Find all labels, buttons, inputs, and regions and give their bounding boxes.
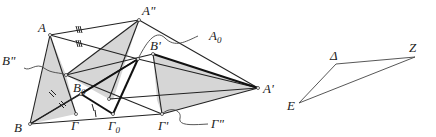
- label-B-prime: B': [150, 38, 161, 53]
- label-Z: Z: [409, 40, 417, 55]
- label-A-prime: A': [262, 81, 274, 96]
- label-Gamma0: Γ0: [107, 118, 120, 135]
- label-E: E: [286, 98, 295, 113]
- label-Gamma-prime: Γ': [157, 118, 168, 133]
- label-Gamma-double-prime: Γ": [210, 116, 224, 131]
- label-B-double-prime: B": [2, 53, 16, 68]
- label-A0: A0: [208, 28, 222, 45]
- shaded-regions: [30, 20, 258, 124]
- label-A-double-prime: A": [141, 3, 156, 18]
- label-Gamma: Γ: [70, 118, 79, 133]
- reference-triangle: [299, 57, 415, 103]
- geometry-diagram: A A" B' A0 A' B" B B0 Γ Γ0 Γ' Γ" Δ Z E: [0, 0, 436, 137]
- label-A: A: [37, 20, 46, 35]
- label-B: B: [14, 120, 22, 135]
- label-Delta: Δ: [329, 48, 338, 63]
